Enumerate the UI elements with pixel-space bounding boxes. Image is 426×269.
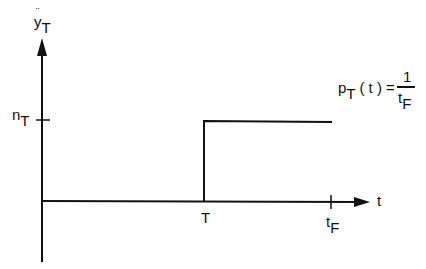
y-axis-label: ¨ yT: [34, 14, 51, 29]
formula-lhs-subscript: T: [346, 85, 355, 102]
y-tick-label-nT: nT: [12, 107, 30, 122]
x-axis: [42, 201, 356, 202]
formula-lhs: pT ( t ) =: [338, 80, 395, 95]
x-axis-label: t: [377, 193, 381, 208]
y-tick-label-subscript: T: [20, 112, 29, 129]
step-function-diagram: ¨ yT nT T tF t pT ( t ) = 1 tF: [0, 0, 426, 269]
formula-fraction-bar: [397, 86, 415, 88]
y-axis-label-subscript: T: [42, 19, 51, 36]
step-curve: [204, 121, 332, 201]
y-axis-arrow-icon: [37, 38, 47, 56]
formula-numerator: 1: [403, 69, 411, 84]
formula-denominator: tF: [398, 90, 411, 105]
formula-denominator-subscript: F: [402, 95, 411, 112]
diagram-canvas: [0, 0, 426, 269]
y-axis-label-accent: ¨: [36, 8, 38, 18]
x-tick-label-T-base: T: [201, 209, 210, 226]
x-tick-label-T: T: [201, 210, 210, 225]
x-tick-label-tF: tF: [326, 214, 339, 229]
x-tick-label-tF-subscript: F: [330, 219, 339, 236]
formula-lhs-args: ( t ) =: [359, 79, 394, 96]
x-axis-arrow-icon: [354, 197, 370, 207]
